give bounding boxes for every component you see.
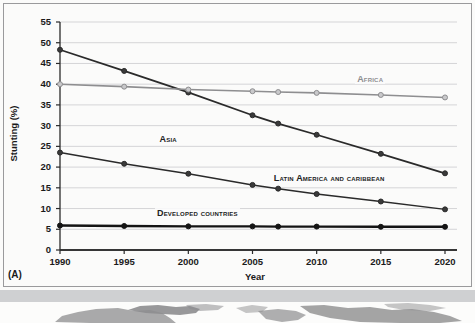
y-axis-tick-label: 55 (27, 17, 51, 27)
x-axis-tick-label: 2005 (231, 256, 275, 267)
panel-label: (A) (8, 269, 22, 280)
series-label-latin-america-and-caribbean: Latin America and caribbean (272, 173, 387, 183)
y-axis-title: Stunting (%) (8, 94, 19, 174)
series-data-point (122, 161, 127, 166)
series-data-point (58, 150, 63, 155)
series-data-point (314, 224, 319, 229)
series-data-point (443, 171, 448, 176)
series-data-point (314, 192, 319, 197)
series-data-point (250, 89, 255, 94)
y-axis-tick-label: 5 (27, 224, 51, 234)
series-data-point (314, 132, 319, 137)
series-data-point (378, 92, 383, 97)
series-data-point (250, 182, 255, 187)
y-axis-tick-label: 10 (27, 204, 51, 214)
series-data-point (276, 121, 281, 126)
series-data-point (443, 207, 448, 212)
y-axis-tick-label: 40 (27, 79, 51, 89)
series-data-point (276, 224, 281, 229)
series-line (60, 50, 445, 174)
x-axis-tick-label: 2010 (295, 256, 339, 267)
y-axis-tick-label: 15 (27, 183, 51, 193)
series-data-point (250, 113, 255, 118)
series-data-point (58, 47, 63, 52)
series-data-point (314, 90, 319, 95)
series-data-point (378, 199, 383, 204)
x-axis-tick-label: 1990 (38, 256, 82, 267)
plot-area-svg (0, 0, 475, 290)
series-data-point (186, 171, 191, 176)
y-axis-tick-label: 35 (27, 100, 51, 110)
line-chart: 0510152025303540455055199019952000200520… (0, 0, 475, 290)
y-axis-tick-label: 50 (27, 38, 51, 48)
y-axis-tick-label: 45 (27, 58, 51, 68)
panel-divider (0, 290, 475, 302)
x-axis-tick-label: 2000 (166, 256, 210, 267)
y-axis-tick-label: 20 (27, 162, 51, 172)
x-axis-tick-label: 2020 (423, 256, 467, 267)
y-axis-tick-label: 0 (27, 245, 51, 255)
x-axis-title: Year (205, 271, 305, 282)
series-data-point (58, 223, 63, 228)
y-axis-tick-label: 30 (27, 121, 51, 131)
figure-panel-a: 0510152025303540455055199019952000200520… (0, 0, 475, 290)
series-data-point (250, 224, 255, 229)
series-data-point (58, 82, 63, 87)
world-map-icon (0, 302, 475, 323)
figure-panel-b-world-map (0, 302, 475, 323)
series-data-point (378, 151, 383, 156)
series-data-point (186, 87, 191, 92)
series-line (60, 153, 445, 210)
series-data-point (378, 224, 383, 229)
series-label-asia: Asia (158, 134, 179, 144)
x-axis-tick-label: 2015 (359, 256, 403, 267)
x-axis-tick-label: 1995 (102, 256, 146, 267)
series-label-africa: Africa (355, 74, 385, 84)
series-data-point (276, 186, 281, 191)
series-data-point (122, 68, 127, 73)
series-data-point (122, 84, 127, 89)
series-data-point (122, 223, 127, 228)
series-data-point (443, 95, 448, 100)
series-data-point (186, 224, 191, 229)
series-label-developed-countries: Developed countries (155, 208, 240, 218)
series-data-point (276, 90, 281, 95)
y-axis-tick-label: 25 (27, 141, 51, 151)
series-data-point (443, 224, 448, 229)
